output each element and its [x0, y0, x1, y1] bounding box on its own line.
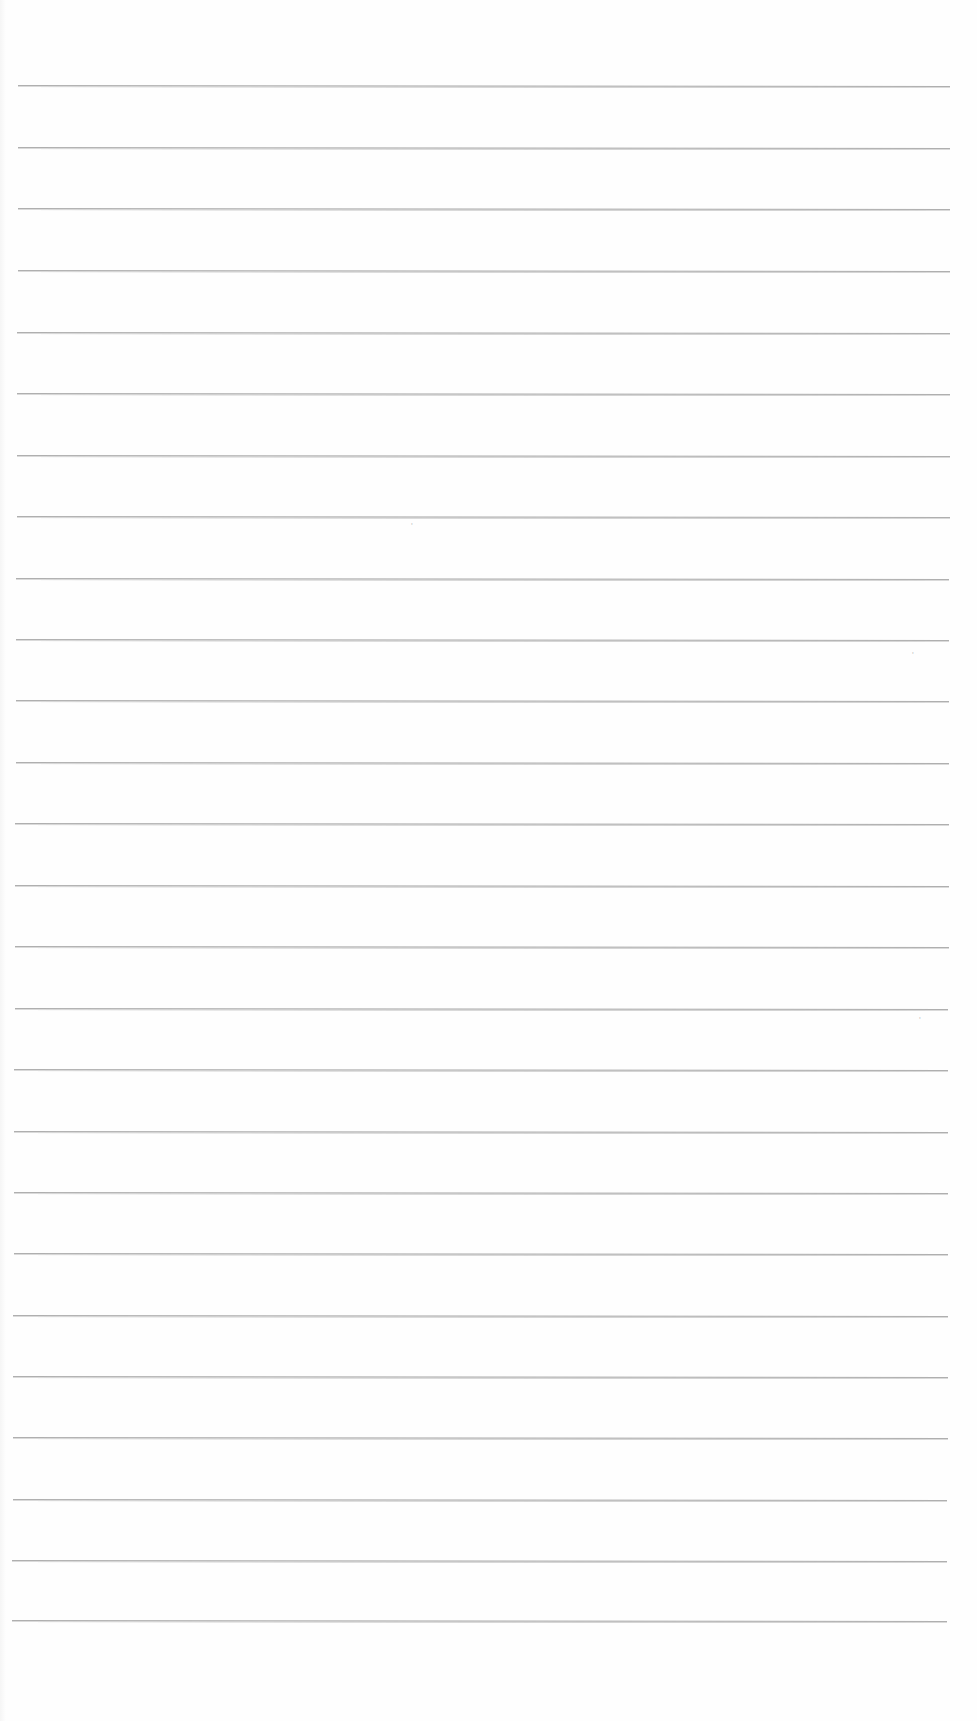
ruled-line	[18, 147, 950, 150]
ruled-lines	[0, 0, 977, 1721]
ruled-line	[15, 946, 949, 949]
ruled-line	[18, 208, 950, 211]
ruled-line	[16, 762, 949, 765]
ruled-line	[13, 1437, 948, 1440]
ruled-line	[15, 823, 949, 826]
ruled-line	[14, 1131, 948, 1134]
ruled-line	[17, 393, 950, 396]
ruled-line	[13, 1376, 948, 1379]
ruled-line	[14, 1192, 948, 1195]
ruled-line	[16, 639, 949, 642]
ruled-line	[18, 85, 950, 88]
ruled-line	[15, 1008, 948, 1011]
ruled-line	[17, 516, 950, 519]
ruled-line	[15, 885, 949, 888]
ruled-line	[14, 1253, 948, 1256]
ruled-line	[17, 332, 950, 335]
ruled-line	[17, 455, 950, 458]
ruled-line	[12, 1620, 947, 1623]
lined-paper-page: ' ' '	[0, 0, 977, 1721]
ruled-line	[12, 1560, 947, 1563]
ruled-line	[18, 270, 950, 273]
ruled-line	[13, 1499, 947, 1502]
ruled-line	[16, 578, 949, 581]
ruled-line	[13, 1315, 948, 1318]
ruled-line	[16, 700, 949, 703]
ruled-line	[14, 1069, 948, 1072]
